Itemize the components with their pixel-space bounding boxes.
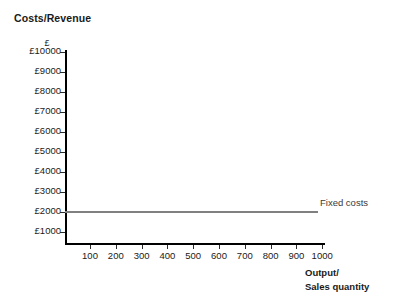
y-tick-mark (60, 232, 65, 233)
y-tick-mark (60, 52, 65, 53)
x-tick-label: 1000 (307, 250, 337, 261)
y-tick-label: £4000 (0, 165, 61, 176)
x-axis-title-line-1: Output/ (305, 266, 369, 280)
x-tick-mark (296, 245, 297, 249)
y-tick-label: £6000 (0, 125, 61, 136)
y-tick-mark (60, 132, 65, 133)
y-axis-line (65, 50, 67, 245)
x-tick-mark (90, 245, 91, 249)
y-tick-label: £9000 (0, 65, 61, 76)
y-tick-label: £10000 (0, 45, 61, 56)
x-axis-title: Output/ Sales quantity (305, 266, 369, 294)
x-tick-mark (219, 245, 220, 249)
chart-canvas: Costs/Revenue £ £1000£2000£3000£4000£500… (0, 0, 396, 303)
y-tick-mark (60, 152, 65, 153)
y-tick-label: £1000 (0, 225, 61, 236)
x-tick-mark (167, 245, 168, 249)
y-tick-mark (60, 112, 65, 113)
x-axis-line (65, 243, 325, 245)
x-tick-mark (116, 245, 117, 249)
x-tick-mark (142, 245, 143, 249)
x-tick-mark (193, 245, 194, 249)
x-tick-mark (245, 245, 246, 249)
y-tick-mark (60, 172, 65, 173)
series-label-fixed-costs: Fixed costs (320, 197, 368, 208)
y-tick-label: £7000 (0, 105, 61, 116)
y-tick-label: £5000 (0, 145, 61, 156)
x-tick-mark (271, 245, 272, 249)
chart-title: Costs/Revenue (14, 12, 91, 24)
x-axis-title-line-2: Sales quantity (305, 280, 369, 294)
y-tick-mark (60, 92, 65, 93)
y-tick-mark (60, 72, 65, 73)
y-tick-label: £8000 (0, 85, 61, 96)
y-tick-label: £3000 (0, 185, 61, 196)
series-line-fixed-costs (65, 211, 318, 213)
y-tick-label: £2000 (0, 205, 61, 216)
x-tick-mark (322, 245, 323, 249)
y-tick-mark (60, 192, 65, 193)
